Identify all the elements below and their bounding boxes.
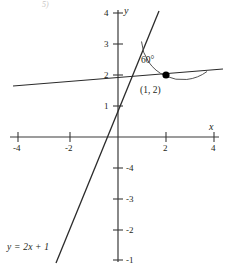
equation-label-line: y = 2x + 1 (7, 243, 49, 253)
plotted-point-1-2 (162, 71, 169, 78)
y-tick-label-neg1: -4 (126, 164, 134, 173)
x-tick-label-neg2: -2 (65, 144, 73, 153)
y-tick-label-pos2: 2 (104, 71, 109, 80)
y-tick-label-pos1: 1 (104, 102, 109, 111)
y-tick-label-neg2: -3 (126, 195, 134, 204)
corner-mark: 5) (42, 1, 49, 9)
y-tick-label-neg4: -1 (126, 256, 134, 265)
coordinate-plot-svg (0, 0, 227, 270)
x-tick-label-pos2: 2 (163, 144, 168, 153)
point-label-1-2: (1, 2) (140, 86, 161, 96)
angle-label-60-degrees: 60° (141, 56, 154, 66)
x-tick-label-pos4: 4 (211, 144, 216, 153)
coordinate-plane-figure: 5) y x -4 -2 2 4 4 3 2 1 -4 -3 -2 -1 60°… (0, 0, 227, 270)
x-axis-label: x (209, 122, 213, 132)
x-tick-label-neg4: -4 (13, 144, 21, 153)
y-tick-label-pos4: 4 (104, 9, 109, 18)
y-tick-label-neg3: -2 (126, 226, 134, 235)
y-tick-label-pos3: 3 (104, 40, 109, 49)
y-axis-label: y (124, 6, 128, 16)
